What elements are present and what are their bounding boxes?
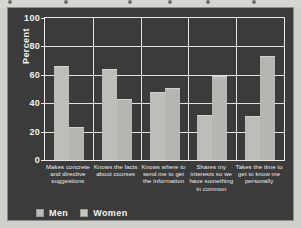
bar-women-2	[117, 99, 132, 160]
legend-item-men[interactable]: Men	[36, 208, 68, 218]
legend-swatch-women-icon	[80, 209, 88, 217]
chart-screenshot: Percent 020406080100 Makes concrete and …	[0, 0, 301, 228]
bar-women-5	[260, 56, 275, 160]
chart-figure: Percent 020406080100 Makes concrete and …	[8, 8, 293, 220]
bar-men-2	[102, 69, 117, 160]
bar-series-group	[45, 18, 284, 160]
bar-women-3	[165, 88, 180, 160]
x-label-3: Knows where to send me to get the inform…	[140, 164, 188, 186]
y-tick-100: 100	[10, 13, 40, 23]
bar-men-5	[245, 116, 260, 160]
legend-label-women: Women	[93, 208, 127, 218]
legend-swatch-men-icon	[36, 209, 44, 217]
bar-men-3	[150, 92, 165, 160]
scan-artifact-strip	[0, 0, 301, 8]
x-label-5: Takes the time to get to know me persona…	[235, 164, 283, 186]
legend-item-women[interactable]: Women	[80, 208, 127, 218]
y-tick-60: 60	[10, 70, 40, 80]
y-tick-80: 80	[10, 41, 40, 51]
chart-legend: MenWomen	[36, 208, 128, 218]
x-label-4: Shares my interests so we have something…	[187, 164, 235, 193]
bar-women-4	[212, 76, 227, 160]
y-tick-0: 0	[10, 155, 40, 165]
x-label-1: Makes concrete and directive suggestions	[44, 164, 92, 186]
bar-women-1	[69, 127, 84, 160]
plot-area	[44, 17, 285, 161]
bar-men-1	[54, 66, 69, 160]
bar-men-4	[197, 115, 212, 160]
x-label-2: Knows the facts about courses	[92, 164, 140, 178]
y-tick-20: 20	[10, 127, 40, 137]
x-axis-category-labels: Makes concrete and directive suggestions…	[44, 164, 285, 206]
y-tick-40: 40	[10, 98, 40, 108]
legend-label-men: Men	[49, 208, 68, 218]
